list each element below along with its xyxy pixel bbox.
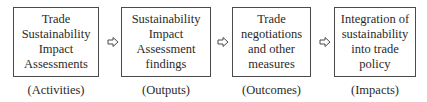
outlined-right-arrow-icon xyxy=(319,36,331,48)
outlined-right-arrow-icon xyxy=(217,36,229,48)
stage-label-outputs: (Outputs) xyxy=(121,83,211,98)
stage-box-impacts: Integration of sustainability into trade… xyxy=(334,7,416,77)
stage-label-impacts: (Impacts) xyxy=(334,83,416,98)
stage-box-outputs: Sustainability Impact Assessment finding… xyxy=(121,7,211,77)
stage-box-outcomes: Trade negotiations and other measures xyxy=(232,7,311,77)
stage-box-activities: Trade Sustainability Impact Assessments xyxy=(13,7,99,77)
stage-label-activities: (Activities) xyxy=(13,83,99,98)
outlined-right-arrow-icon xyxy=(107,36,119,48)
stage-label-outcomes: (Outcomes) xyxy=(227,83,316,98)
